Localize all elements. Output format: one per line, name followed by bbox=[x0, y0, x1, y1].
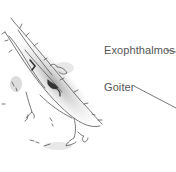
goiter-leader-line bbox=[134, 86, 176, 108]
creature-illustration bbox=[0, 0, 176, 172]
label-goiter: Goiter bbox=[104, 81, 135, 93]
label-exophthalmos: Exophthalmos bbox=[104, 44, 175, 56]
